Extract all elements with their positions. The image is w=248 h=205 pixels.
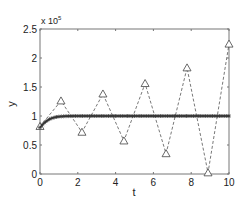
axis-labels: t y x 105 bbox=[5, 15, 136, 198]
triangle-marker bbox=[78, 128, 86, 135]
plot-frame bbox=[40, 29, 229, 174]
x-tick-label: 4 bbox=[113, 177, 119, 188]
line-chart: 024681000.511.522.5 t y x 105 bbox=[0, 0, 248, 205]
x-tick-label: 2 bbox=[75, 177, 81, 188]
triangle-marker bbox=[204, 169, 212, 176]
x-tick-label: 10 bbox=[223, 177, 235, 188]
series bbox=[36, 40, 233, 176]
y-multiplier-exponent: 5 bbox=[58, 15, 62, 21]
triangle-marker bbox=[141, 80, 149, 87]
triangle-marker bbox=[162, 150, 170, 157]
y-multiplier-label: x 105 bbox=[41, 15, 62, 26]
axes: 024681000.511.522.5 bbox=[23, 24, 235, 189]
y-multiplier-base: x 10 bbox=[41, 16, 58, 26]
y-tick-label: 2.5 bbox=[23, 24, 37, 35]
y-axis-label: y bbox=[5, 101, 17, 107]
triangle-marker bbox=[225, 40, 233, 47]
series-layer bbox=[36, 40, 233, 176]
x-tick-label: 6 bbox=[151, 177, 157, 188]
triangle-marker bbox=[57, 97, 65, 104]
x-tick-label: 8 bbox=[188, 177, 194, 188]
y-tick-label: 0 bbox=[31, 169, 37, 180]
triangle-marker bbox=[183, 64, 191, 71]
triangle-marker bbox=[120, 137, 128, 144]
asterisk-marker bbox=[227, 114, 231, 118]
y-tick-label: 1.5 bbox=[23, 82, 37, 93]
series bbox=[38, 114, 231, 130]
y-tick-label: 0.5 bbox=[23, 140, 37, 151]
x-tick-label: 0 bbox=[37, 177, 43, 188]
triangle-marker bbox=[99, 90, 107, 97]
y-tick-label: 1 bbox=[31, 111, 37, 122]
x-axis-label: t bbox=[132, 186, 135, 198]
series-line bbox=[40, 44, 229, 173]
y-tick-label: 2 bbox=[31, 53, 37, 64]
